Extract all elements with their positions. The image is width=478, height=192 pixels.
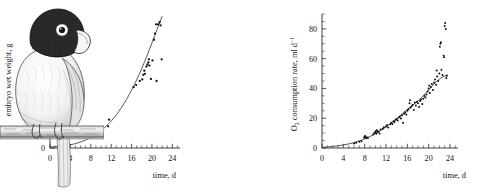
x-tick-label: 24 (446, 154, 454, 163)
data-point (432, 89, 434, 91)
perch-branch (0, 126, 104, 139)
data-point (428, 84, 430, 86)
figure-container: embryo wet weight, g 00.40.81.21.622.4 0… (0, 0, 478, 192)
data-point (360, 140, 362, 142)
data-point (376, 129, 378, 131)
chart-svg-right: O2 consumption rate, ml d−1 020406080 04… (286, 0, 478, 192)
data-point (399, 116, 401, 118)
data-point (421, 103, 423, 105)
data-point (439, 46, 441, 48)
data-point (364, 135, 366, 137)
data-point (407, 108, 409, 110)
data-point (401, 114, 403, 116)
data-point (147, 61, 149, 63)
data-point (440, 41, 442, 43)
chart-panel-o2-consumption: O2 consumption rate, ml d−1 020406080 04… (286, 0, 478, 192)
data-point (355, 142, 357, 144)
data-point (445, 77, 447, 79)
data-point (353, 143, 355, 145)
data-point (435, 84, 437, 86)
y-tick-label: 60 (309, 55, 317, 64)
data-point (397, 119, 399, 121)
data-point (144, 73, 146, 75)
data-point (155, 80, 157, 82)
x-axis-label-left: time, d (153, 171, 177, 180)
data-point (412, 104, 414, 106)
data-point (387, 126, 389, 128)
data-point (391, 123, 393, 125)
data-point (424, 96, 426, 98)
x-tick-label: 20 (148, 154, 156, 163)
data-point (436, 70, 438, 72)
x-axis-label-right: time, d (443, 171, 467, 180)
data-point (438, 73, 440, 75)
data-point (378, 131, 380, 133)
data-point (159, 24, 161, 26)
data-point (427, 90, 429, 92)
data-point (108, 119, 110, 121)
data-point (413, 109, 415, 111)
data-point (151, 59, 153, 61)
data-point (155, 23, 157, 25)
data-point (430, 86, 432, 88)
data-point (153, 39, 155, 41)
data-point (375, 133, 377, 135)
data-point (141, 78, 143, 80)
parrot-illustration (0, 0, 104, 192)
x-tick-label: 4 (341, 154, 345, 163)
y-axis-label-right: O2 consumption rate, ml d−1 (289, 37, 300, 132)
data-point (426, 93, 428, 95)
scatter-points-right (353, 22, 448, 145)
data-point (433, 81, 435, 83)
data-point (161, 58, 163, 60)
data-point (405, 114, 407, 116)
data-point (408, 102, 410, 104)
data-point (135, 84, 137, 86)
data-point (143, 70, 145, 72)
data-point (404, 111, 406, 113)
x-tick-labels-right: 04812162024 (320, 154, 454, 163)
parrot-illustration-svg (0, 0, 104, 192)
data-point (440, 69, 442, 71)
y-tick-label: 20 (309, 114, 317, 123)
data-point (379, 132, 381, 134)
data-point (409, 99, 411, 101)
data-point (157, 23, 159, 25)
data-point (420, 99, 422, 101)
y-tick-label: 0 (313, 144, 317, 153)
data-point (415, 105, 417, 107)
x-tick-label: 8 (363, 154, 367, 163)
x-tick-label: 12 (382, 154, 390, 163)
data-point (434, 79, 436, 81)
data-point (446, 75, 448, 77)
data-point (380, 128, 382, 130)
x-tick-label: 16 (128, 154, 136, 163)
data-point (429, 92, 431, 94)
data-point (428, 87, 430, 89)
data-point (394, 121, 396, 123)
data-point (154, 32, 156, 34)
data-point (437, 80, 439, 82)
data-point (358, 141, 360, 143)
data-point (443, 56, 445, 58)
data-point (139, 80, 141, 82)
y-tick-label: 80 (309, 25, 317, 34)
data-point (414, 102, 416, 104)
data-point (107, 125, 109, 127)
data-point (422, 98, 424, 100)
data-point (417, 102, 419, 104)
x-tick-label: 12 (107, 154, 115, 163)
data-point (444, 22, 446, 24)
x-tick-label: 16 (403, 154, 411, 163)
data-point (400, 118, 402, 120)
data-point (146, 63, 148, 65)
data-point (436, 76, 438, 78)
x-tick-label: 0 (320, 154, 324, 163)
x-tick-label: 20 (425, 154, 433, 163)
data-point (402, 122, 404, 124)
data-point (442, 74, 444, 76)
data-point (145, 65, 147, 67)
data-point (445, 28, 447, 30)
parrot-eye (56, 24, 68, 36)
data-point (150, 78, 152, 80)
